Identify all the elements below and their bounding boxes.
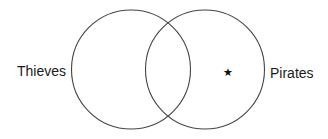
pirates-label: Pirates <box>270 65 314 81</box>
thieves-label: Thieves <box>17 63 66 79</box>
pirates-circle <box>146 10 265 129</box>
thieves-circle <box>72 10 191 129</box>
venn-diagram: Thieves Pirates ★ <box>0 0 328 139</box>
venn-svg: Thieves Pirates ★ <box>0 0 328 139</box>
star-marker-icon: ★ <box>223 66 233 79</box>
